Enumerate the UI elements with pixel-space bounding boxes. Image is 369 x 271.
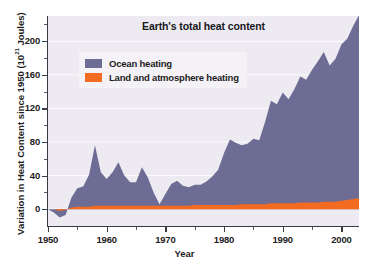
area-chart-svg xyxy=(48,16,359,226)
x-axis-tick-minor xyxy=(195,227,196,230)
y-axis-tick-minor xyxy=(44,92,47,93)
x-axis-tick-label: 1970 xyxy=(155,234,175,245)
y-axis-tick-minor xyxy=(44,159,47,160)
x-axis-tick-label: 2000 xyxy=(331,234,351,245)
y-axis-tick-minor xyxy=(44,24,47,25)
legend-item-land-and-atmosphere-heating[interactable]: Land and atmosphere heating xyxy=(85,70,239,84)
y-axis-tick xyxy=(42,142,47,143)
y-axis-tick-minor xyxy=(44,58,47,59)
x-axis-tick xyxy=(341,227,342,232)
legend-label-land-and-atmosphere-heating: Land and atmosphere heating xyxy=(109,72,239,83)
legend-swatch-land-and-atmosphere-heating xyxy=(85,73,102,82)
x-axis-tick xyxy=(224,227,225,232)
x-axis-tick-minor xyxy=(136,227,137,230)
y-axis-line xyxy=(47,16,48,227)
chart-title: Earth's total heat content xyxy=(48,20,359,32)
series-area-ocean-heating xyxy=(48,16,359,218)
y-axis-tick-minor xyxy=(44,192,47,193)
y-axis-tick xyxy=(42,75,47,76)
y-axis-tick xyxy=(42,209,47,210)
x-axis-tick-minor xyxy=(312,227,313,230)
legend-item-ocean-heating[interactable]: Ocean heating xyxy=(85,56,239,70)
x-axis-tick-label: 1960 xyxy=(97,234,117,245)
y-axis-tick-minor xyxy=(44,125,47,126)
y-axis-title-suffix: Joules) xyxy=(15,12,26,48)
y-axis-title-exponent: 21 xyxy=(14,48,20,55)
x-axis-tick-minor xyxy=(77,227,78,230)
legend-label-ocean-heating: Ocean heating xyxy=(109,58,172,69)
x-axis-title: Year xyxy=(0,248,369,259)
x-axis-tick xyxy=(107,227,108,232)
chart-legend: Ocean heating Land and atmosphere heatin… xyxy=(79,52,247,88)
x-axis-tick xyxy=(165,227,166,232)
legend-swatch-ocean-heating xyxy=(85,59,102,68)
x-axis-tick-label: 1980 xyxy=(214,234,234,245)
x-axis-tick-label: 1950 xyxy=(38,234,58,245)
chart-figure: 04080120160200 195019601970198019902000 … xyxy=(0,0,369,271)
x-axis-tick xyxy=(283,227,284,232)
y-axis-tick xyxy=(42,176,47,177)
y-axis-tick xyxy=(42,108,47,109)
y-axis-title: Variation in Heat Content since 1950 (10… xyxy=(14,6,25,242)
x-axis-tick xyxy=(48,227,49,232)
y-axis-title-prefix: Variation in Heat Content since 1950 (10 xyxy=(15,55,26,235)
x-axis-tick-minor xyxy=(253,227,254,230)
x-axis-tick-label: 1990 xyxy=(273,234,293,245)
y-axis-tick xyxy=(42,41,47,42)
